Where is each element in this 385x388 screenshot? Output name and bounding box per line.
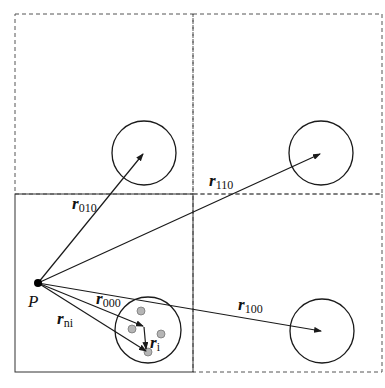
cell-010	[15, 14, 193, 194]
vector-r110	[38, 154, 320, 283]
vector-ri	[144, 327, 146, 349]
label-r000: r000	[96, 289, 121, 310]
cluster-circle-100	[290, 299, 354, 363]
label-r100: r100	[238, 295, 263, 316]
point-p-marker	[34, 279, 42, 287]
point-p-label: P	[27, 292, 38, 311]
cell-110	[193, 14, 382, 194]
label-rni: rni	[57, 309, 74, 330]
periodic-cells-diagram: P r010 r110 r000 r100 rni ri	[0, 0, 385, 388]
particle	[137, 307, 145, 315]
cell-100	[193, 194, 382, 372]
label-r010: r010	[72, 194, 97, 215]
cluster-circle-010	[112, 121, 176, 185]
vector-r100	[38, 283, 321, 331]
label-r110: r110	[209, 171, 233, 192]
particle	[128, 325, 136, 333]
particle	[157, 330, 165, 338]
vector-r010	[38, 154, 143, 283]
vector-rni	[38, 283, 146, 351]
cluster-circle-110	[289, 121, 353, 185]
